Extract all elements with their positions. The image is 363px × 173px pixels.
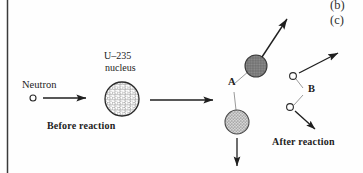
link-a-to-lower-fragment <box>234 92 236 110</box>
neutron-label: Neutron <box>22 80 56 91</box>
upper-fragment-momentum-arrow <box>262 19 287 57</box>
upper-fission-fragment-icon <box>245 55 267 77</box>
part-label-c: (c) <box>330 14 344 27</box>
fission-diagram-figure: Neutron U–235 nucleus Before reaction Af… <box>0 0 363 173</box>
part-label-b: (b) <box>330 0 345 12</box>
lower-fission-fragment-icon <box>225 110 249 134</box>
emitted-neutron-upper-arrow <box>299 53 338 73</box>
link-a-to-upper-fragment <box>234 71 249 84</box>
u235-nucleus-label-line2: nucleus <box>105 63 136 73</box>
before-reaction-label: Before reaction <box>47 121 115 131</box>
emitted-neutron-lower-arrow <box>295 111 315 129</box>
incoming-neutron-icon <box>30 95 36 101</box>
point-a-label: A <box>228 77 236 88</box>
point-b-label: B <box>308 84 315 95</box>
after-reaction-label: After reaction <box>272 137 335 147</box>
emitted-neutron-lower-icon <box>287 104 294 111</box>
u235-nucleus-icon <box>105 82 139 116</box>
link-b-to-lower-neutron <box>294 95 303 105</box>
link-b-to-upper-neutron <box>296 79 303 88</box>
u235-nucleus-label-line1: U–235 <box>104 51 131 61</box>
emitted-neutron-upper-icon <box>290 73 297 80</box>
